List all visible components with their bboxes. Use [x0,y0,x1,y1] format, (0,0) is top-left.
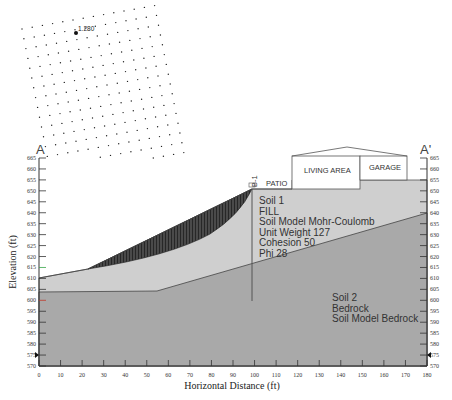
x-tick-label: 90 [230,372,236,378]
patio-label: PATIO [266,179,288,188]
svg-text:Soil Model Bedrock: Soil Model Bedrock [332,313,419,324]
min-fs-label: 1.280 [78,25,95,32]
y-tick-label: 625 [430,243,439,249]
svg-text:Phi 28: Phi 28 [259,248,288,259]
living-area-label: LIVING AREA [304,166,351,175]
x-tick-label: 130 [315,372,324,378]
y-tick-label: 650 [430,188,439,194]
y-tick-label: 575 [27,352,36,358]
x-tick-label: 120 [293,372,302,378]
y-tick-label: 665 [27,155,36,161]
x-tick-label: 150 [358,372,367,378]
boring-label: B-1 [250,175,259,187]
y-tick-label: 585 [430,330,439,336]
water-level-left-icon [35,352,39,358]
x-tick-label: 110 [272,372,281,378]
y-tick-label: 595 [430,308,439,314]
x-tick-label: 160 [379,372,388,378]
svg-text:Soil 2: Soil 2 [332,292,357,303]
water-level-right-icon [427,352,431,358]
y-tick-label: 635 [430,221,439,227]
y-tick-label: 590 [27,319,36,325]
svg-text:Bedrock: Bedrock [332,303,370,314]
y-tick-label: 625 [27,243,36,249]
slope-stability-section: 1.280 A A' B-1 PATIO LIVING AREA GARAGE … [0,0,452,400]
x-tick-label: 50 [144,372,150,378]
y-tick-label: 595 [27,308,36,314]
y-tick-label: 635 [27,221,36,227]
y-tick-label: 650 [27,188,36,194]
y-tick-label: 585 [27,330,36,336]
y-tick-label: 570 [27,363,36,369]
y-tick-label: 655 [27,177,36,183]
y-tick-label: 615 [430,264,439,270]
x-tick-label: 10 [58,372,64,378]
y-tick-label: 580 [430,341,439,347]
x-tick-label: 60 [165,372,171,378]
roof-line [292,147,407,156]
svg-text:Soil Model Mohr-Coulomb: Soil Model Mohr-Coulomb [259,216,375,227]
y-tick-label: 570 [430,363,439,369]
svg-text:Cohesion 50: Cohesion 50 [259,237,316,248]
svg-text:Unit Weight 127: Unit Weight 127 [259,227,330,238]
y-tick-label: 605 [430,286,439,292]
x-tick-label: 80 [208,372,214,378]
y-tick-label: 600 [27,297,36,303]
y-tick-label: 630 [27,232,36,238]
garage-label: GARAGE [369,163,401,172]
x-axis-title: Horizontal Distance (ft) [184,380,280,392]
y-tick-label: 610 [430,275,439,281]
slip-center-search-grid [21,5,184,159]
section-start-label: A [36,142,45,157]
y-tick-label: 600 [430,297,439,303]
y-axis-title: Elevation (ft) [7,235,19,289]
y-tick-label: 615 [27,264,36,270]
x-tick-label: 20 [79,372,85,378]
x-tick-label: 140 [336,372,345,378]
y-tick-label: 580 [27,341,36,347]
y-tick-label: 645 [27,199,36,205]
svg-text:Soil 1: Soil 1 [259,195,284,206]
y-tick-label: 620 [430,254,439,260]
y-tick-label: 660 [430,166,439,172]
y-tick-label: 655 [430,177,439,183]
x-tick-label: 70 [187,372,193,378]
svg-text:FILL: FILL [259,206,279,217]
y-tick-label: 605 [27,286,36,292]
y-tick-label: 645 [430,199,439,205]
y-tick-label: 640 [27,210,36,216]
x-tick-label: 40 [122,372,128,378]
x-tick-label: 100 [250,372,259,378]
x-tick-label: 170 [401,372,410,378]
y-tick-label: 590 [430,319,439,325]
y-tick-label: 665 [430,155,439,161]
x-tick-label: 180 [423,372,432,378]
y-tick-label: 640 [430,210,439,216]
y-tick-label: 660 [27,166,36,172]
y-tick-label: 575 [430,352,439,358]
x-tick-label: 30 [101,372,107,378]
y-tick-label: 620 [27,254,36,260]
x-tick-label: 0 [38,372,41,378]
y-tick-label: 630 [430,232,439,238]
y-tick-label: 610 [27,275,36,281]
